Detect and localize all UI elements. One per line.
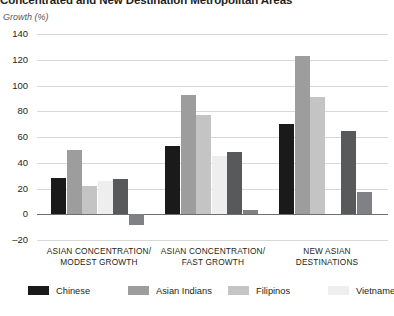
- y-axis-tick-label: 60: [0, 131, 28, 142]
- chart-title: Concentrated and New Destination Metropo…: [0, 0, 394, 6]
- chart-container: Concentrated and New Destination Metropo…: [0, 0, 394, 316]
- legend-item-label: Chinese: [56, 286, 90, 296]
- x-axis-category-line: ASIAN CONCENTRATION/: [37, 246, 161, 257]
- legend-swatch-icon: [228, 286, 249, 295]
- legend-swatch-icon: [28, 286, 49, 295]
- bar-group: [279, 34, 375, 240]
- legend-item[interactable]: Asian Indians: [128, 283, 228, 298]
- y-axis-tick-label: 100: [0, 80, 28, 91]
- y-axis-tick-label: 120: [0, 54, 28, 65]
- legend-item-label: Vietnamese: [356, 286, 394, 296]
- bar: [98, 181, 113, 214]
- legend-item[interactable]: Chinese: [28, 283, 128, 298]
- bar: [357, 192, 372, 214]
- bar: [341, 131, 356, 215]
- bar: [165, 146, 180, 214]
- y-axis-tick-label: 0: [0, 208, 28, 219]
- plot-area: 140120100806040200–20: [37, 34, 388, 240]
- bar-groups: [37, 34, 388, 240]
- legend-item-label: Filipinos: [256, 286, 290, 296]
- legend-item-label: Asian Indians: [156, 286, 212, 296]
- y-axis-tick-label: –20: [0, 234, 28, 245]
- gridline: [37, 240, 388, 241]
- legend-swatch-icon: [328, 286, 349, 295]
- y-axis-tick-label: 140: [0, 28, 28, 39]
- bar: [82, 186, 97, 214]
- bar: [129, 214, 144, 224]
- y-axis-tick-label: 40: [0, 157, 28, 168]
- x-axis-category-line: MODEST GROWTH: [37, 257, 161, 268]
- bar: [113, 179, 128, 214]
- bar: [212, 156, 227, 214]
- bar-group: [165, 34, 261, 240]
- x-axis-category-line: ASIAN CONCENTRATION/: [151, 246, 275, 257]
- bar: [181, 95, 196, 215]
- legend-item[interactable]: Filipinos: [228, 283, 328, 298]
- bar: [196, 115, 211, 214]
- legend-item[interactable]: Vietnamese: [328, 283, 394, 298]
- y-axis-tick-label: 20: [0, 183, 28, 194]
- bar: [67, 150, 82, 214]
- x-axis-category-line: DESTINATIONS: [265, 257, 389, 268]
- chart-legend: ChineseAsian IndiansFilipinosVietnameseK…: [28, 283, 358, 298]
- x-axis-category-label: ASIAN CONCENTRATION/MODEST GROWTH: [37, 246, 161, 268]
- legend-swatch-icon: [128, 286, 149, 295]
- bar: [51, 178, 66, 214]
- bar: [295, 56, 310, 214]
- y-axis-tick-label: 80: [0, 105, 28, 116]
- bar-group: [51, 34, 147, 240]
- x-axis-category-line: FAST GROWTH: [151, 257, 275, 268]
- bar: [227, 152, 242, 214]
- x-axis-category-line: NEW ASIAN: [265, 246, 389, 257]
- x-axis-category-label: ASIAN CONCENTRATION/FAST GROWTH: [151, 246, 275, 268]
- bar: [243, 210, 258, 214]
- bar: [310, 97, 325, 214]
- bar: [279, 124, 294, 214]
- x-axis-category-label: NEW ASIANDESTINATIONS: [265, 246, 389, 268]
- y-axis-caption: Growth (%): [3, 12, 49, 22]
